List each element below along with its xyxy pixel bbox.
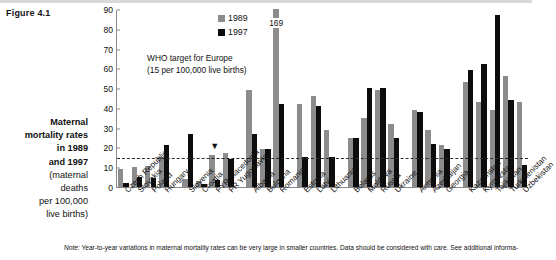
y-axis-tick-label: 60 [103,64,117,74]
y-axis-tick-mark [117,10,120,11]
bar [353,138,358,187]
y-axis-tick-label: 90 [103,5,117,15]
side-caption-line: (maternal [2,169,88,182]
side-caption-line: in 1989 [2,142,88,155]
y-axis-tick-label: 80 [103,25,117,35]
chart-axes: WHO target for Europe (15 per 100,000 li… [116,10,528,188]
side-caption: Maternalmortality ratesin 1989and 1997(m… [2,116,88,222]
y-axis-tick-mark [117,49,120,50]
figure-footnote: Note: Year-to-year variations in materna… [64,243,530,252]
top-rule [0,0,532,3]
y-axis-tick-mark [117,168,120,169]
y-axis-tick-label: 40 [103,104,117,114]
y-axis-tick-label: 10 [103,163,117,173]
side-caption-line: Maternal [2,116,88,129]
bars-layer: 169▼ [117,10,528,187]
y-axis-tick-label: 70 [103,45,117,55]
side-caption-line: per 100,000 [2,195,88,208]
side-caption-line: live births) [2,208,88,221]
clipped-value-label: 169 [268,18,284,28]
y-axis-tick-mark [117,148,120,149]
side-caption-line: deaths [2,182,88,195]
caret-down-icon: ▼ [210,141,219,151]
side-caption-line: and 1997 [2,156,88,169]
bar [417,112,422,187]
figure-label: Figure 4.1 [6,8,51,18]
bar [188,134,193,187]
category-labels: Czech RepublicSlovakiaPolandHungarySlove… [116,188,528,246]
bar [468,70,473,187]
y-axis-tick-mark [117,128,120,129]
footnote-prefix: Note: [64,244,80,251]
y-axis-tick-label: 20 [103,143,117,153]
footnote-text: Year-to-year variations in maternal mort… [80,244,518,251]
y-axis-tick-label: 50 [103,84,117,94]
y-axis-tick-label: 30 [103,124,117,134]
y-axis-tick-mark [117,69,120,70]
y-axis-tick-mark [117,29,120,30]
side-caption-line: mortality rates [2,129,88,142]
y-axis-tick-mark [117,108,120,109]
who-target-reference-line [117,158,528,159]
y-axis-tick-mark [117,89,120,90]
